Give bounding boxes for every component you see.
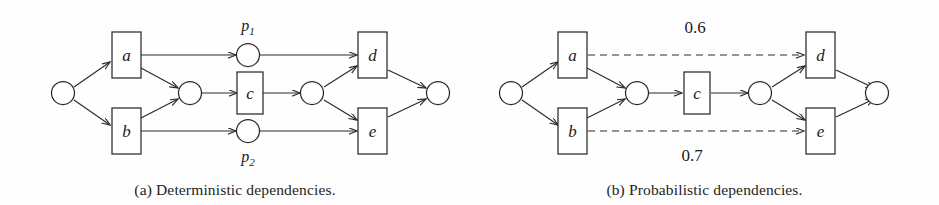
weight-label-top: 0.6	[684, 18, 705, 37]
node-start-circle[interactable]	[52, 82, 75, 105]
node-task-b-label: b	[568, 122, 577, 141]
weight-label-bottom: 0.7	[681, 146, 703, 165]
node-start-circle[interactable]	[500, 82, 523, 105]
node-join-circle[interactable]	[179, 82, 202, 105]
node-task-c-label: c	[246, 84, 254, 103]
panel-probabilistic: a b c d e 0.6 0.7 (b) Probabilistic depe…	[470, 0, 939, 205]
edge-b-to-join	[141, 99, 178, 118]
node-task-e-label: e	[817, 122, 825, 141]
edge-d-to-end	[388, 70, 426, 88]
panel-a-caption: (a) Deterministic dependencies.	[0, 181, 470, 199]
node-fork-circle[interactable]	[301, 82, 324, 105]
edge-a-to-join	[141, 68, 178, 88]
node-task-a-label: a	[122, 46, 131, 65]
place-label-p2: p2	[240, 148, 255, 168]
place-label-p1: p1	[240, 17, 255, 37]
place-label-p1-base: p	[240, 17, 249, 35]
node-end-circle[interactable]	[866, 82, 889, 105]
edge-start-to-b	[74, 100, 110, 125]
node-place-p1-circle[interactable]	[237, 44, 260, 67]
node-join-circle[interactable]	[626, 82, 649, 105]
node-place-p2-circle[interactable]	[237, 120, 260, 143]
node-fork-circle[interactable]	[749, 82, 772, 105]
node-task-b-label: b	[122, 122, 131, 141]
edge-start-to-a	[74, 62, 110, 87]
place-label-p1-subscript: 1	[249, 25, 255, 37]
edge-fork-to-e	[324, 100, 357, 120]
figure-root: a b c d e p1 p2 (a) Deterministic depend…	[0, 0, 939, 205]
node-end-circle[interactable]	[427, 82, 450, 105]
edge-a-to-join	[587, 68, 625, 88]
node-task-e-label: e	[369, 122, 377, 141]
panel-deterministic: a b c d e p1 p2 (a) Deterministic depend…	[0, 0, 470, 205]
edge-start-to-a	[522, 62, 558, 87]
edge-fork-to-d	[772, 66, 805, 87]
node-task-d-label: d	[368, 46, 377, 65]
edge-b-to-join	[587, 99, 625, 118]
edge-fork-to-e	[772, 100, 805, 120]
probabilistic-dependency-graph: a b c d e 0.6 0.7	[470, 0, 939, 175]
deterministic-dependency-graph: a b c d e p1 p2	[0, 0, 470, 175]
place-label-p2-subscript: 2	[249, 156, 255, 168]
panel-b-caption: (b) Probabilistic dependencies.	[470, 181, 939, 199]
edge-fork-to-d	[324, 66, 357, 87]
node-task-a-label: a	[568, 46, 577, 65]
edge-e-to-end	[388, 99, 426, 117]
edge-e-to-end	[836, 99, 874, 117]
place-label-p2-base: p	[240, 148, 249, 166]
node-task-c-label: c	[693, 84, 701, 103]
node-task-d-label: d	[816, 46, 825, 65]
edge-start-to-b	[522, 100, 558, 125]
